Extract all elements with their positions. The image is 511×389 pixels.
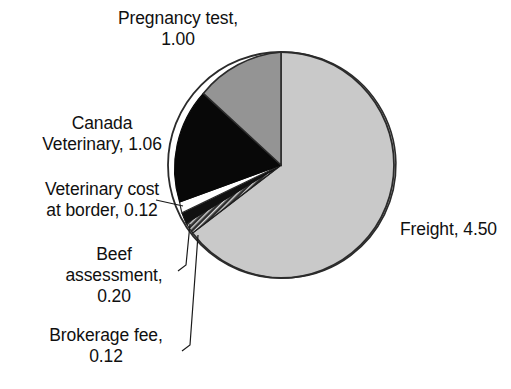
slice-label-canada-veterinary: Canada Veterinary, 1.06 bbox=[6, 113, 198, 155]
slice-label-pregnancy-test: Pregnancy test, 1.00 bbox=[78, 8, 278, 50]
pie-chart: Pregnancy test, 1.00 Canada Veterinary, … bbox=[0, 0, 511, 389]
slice-label-freight: Freight, 4.50 bbox=[400, 219, 511, 240]
slice-label-veterinary-cost-at-border: Veterinary cost at border, 0.12 bbox=[6, 179, 198, 221]
slice-label-brokerage-fee: Brokerage fee, 0.12 bbox=[14, 325, 198, 367]
slice-label-beef-assessment: Beef assessment, 0.20 bbox=[34, 244, 194, 307]
